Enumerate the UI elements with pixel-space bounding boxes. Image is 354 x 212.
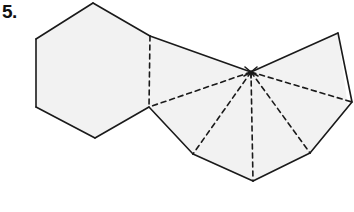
figure-root: 5. xyxy=(0,0,354,212)
hexagon-face xyxy=(36,3,150,138)
geometric-net-diagram xyxy=(0,0,354,212)
fan-apex-point xyxy=(249,70,253,74)
